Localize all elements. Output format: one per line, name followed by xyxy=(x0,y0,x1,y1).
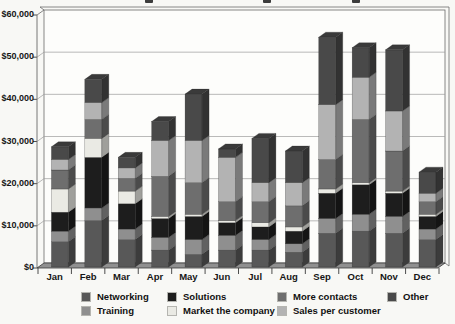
y-axis-label: $60,000 xyxy=(0,9,34,20)
bar-side-sep-more-contacts xyxy=(336,154,343,189)
bar-segment-dec-training xyxy=(419,229,436,240)
x-axis-label-jan: Jan xyxy=(38,271,72,282)
legend-item-networking: Networking xyxy=(81,291,149,302)
bar-side-feb-networking xyxy=(102,216,109,267)
legend-label: Networking xyxy=(97,291,149,302)
bar-segment-dec-other xyxy=(419,172,436,193)
legend-item-solutions: Solutions xyxy=(167,291,226,302)
bar-segment-jul-solutions xyxy=(252,227,269,240)
legend-swatch-training xyxy=(81,306,91,316)
bar-segment-mar-training xyxy=(118,229,135,240)
bar-segment-nov-solutions xyxy=(386,193,403,216)
bar-segment-apr-solutions xyxy=(152,219,169,238)
bar-segment-sep-market-the-company xyxy=(319,189,336,193)
bar-side-aug-other xyxy=(302,146,309,183)
side-wall-gridline xyxy=(37,221,44,226)
bar-segment-oct-solutions xyxy=(352,185,369,215)
y-axis-label: $20,000 xyxy=(0,178,34,189)
bar-segment-aug-other xyxy=(285,151,302,183)
bar-segment-sep-networking xyxy=(319,233,336,267)
bar-side-apr-more-contacts xyxy=(169,171,176,216)
bar-segment-sep-other xyxy=(319,37,336,104)
bar-segment-dec-market-the-company xyxy=(419,214,436,216)
legend-label: Sales per customer xyxy=(293,305,381,316)
bar-side-sep-solutions xyxy=(336,188,343,218)
side-wall-top-edge xyxy=(37,10,44,15)
bar-segment-dec-more-contacts xyxy=(419,202,436,215)
side-wall-gridline xyxy=(37,179,44,184)
bar-segment-jun-networking xyxy=(218,250,235,267)
bar-segment-jul-more-contacts xyxy=(252,202,269,223)
bar-segment-mar-more-contacts xyxy=(118,178,135,191)
bar-side-sep-other xyxy=(336,32,343,104)
legend-item-training: Training xyxy=(81,305,134,316)
bar-segment-oct-sales-per-customer xyxy=(352,77,369,119)
bar-segment-apr-sales-per-customer xyxy=(152,141,169,177)
bar-segment-jun-solutions xyxy=(218,223,235,236)
bar-side-sep-sales-per-customer xyxy=(336,100,343,160)
bar-segment-may-solutions xyxy=(185,216,202,239)
bar-segment-mar-networking xyxy=(118,240,135,267)
y-axis-label: $0 xyxy=(0,262,34,273)
bar-segment-mar-market-the-company xyxy=(118,191,135,204)
bar-segment-aug-solutions xyxy=(285,231,302,244)
y-axis-label: $30,000 xyxy=(0,136,34,147)
x-axis-label-oct: Oct xyxy=(338,271,372,282)
legend-swatch-networking xyxy=(81,292,91,302)
bar-segment-may-training xyxy=(185,240,202,255)
bar-side-sep-networking xyxy=(336,228,343,267)
bar-segment-sep-solutions xyxy=(319,193,336,218)
bar-side-mar-solutions xyxy=(135,199,142,229)
bar-segment-apr-market-the-company xyxy=(152,216,169,218)
bar-segment-jul-sales-per-customer xyxy=(252,183,269,202)
bar-segment-jul-other xyxy=(252,138,269,182)
bar-side-mar-networking xyxy=(135,235,142,267)
bar-side-dec-networking xyxy=(436,235,443,267)
legend-swatch-other xyxy=(387,292,397,302)
bar-side-may-more-contacts xyxy=(202,178,209,215)
bar-segment-nov-other xyxy=(386,50,403,111)
bar-segment-may-market-the-company xyxy=(185,214,202,216)
stacked-column-chart-page: $60,000$50,000$40,000$30,000$20,000$10,0… xyxy=(0,0,455,324)
bar-segment-jun-market-the-company xyxy=(218,221,235,223)
bar-segment-mar-sales-per-customer xyxy=(118,168,135,179)
bar-segment-nov-training xyxy=(386,216,403,233)
y-axis-label: $40,000 xyxy=(0,93,34,104)
bar-side-nov-networking xyxy=(403,228,410,267)
bar-side-oct-solutions xyxy=(369,180,376,215)
legend-item-sales-per-customer: Sales per customer xyxy=(277,305,381,316)
y-axis-label: $10,000 xyxy=(0,220,34,231)
bar-segment-oct-other xyxy=(352,48,369,78)
x-axis-label-jun: Jun xyxy=(205,271,239,282)
bar-segment-sep-training xyxy=(319,219,336,234)
bar-segment-feb-solutions xyxy=(85,157,102,208)
bar-segment-jun-sales-per-customer xyxy=(218,157,235,201)
legend-label: More contacts xyxy=(293,291,357,302)
x-axis-label-dec: Dec xyxy=(405,271,439,282)
bar-side-jan-networking xyxy=(68,237,75,267)
bar-segment-apr-more-contacts xyxy=(152,176,169,216)
bar-segment-sep-more-contacts xyxy=(319,159,336,189)
bar-segment-jan-other xyxy=(51,147,68,160)
bar-segment-apr-training xyxy=(152,237,169,250)
bar-segment-may-sales-per-customer xyxy=(185,141,202,183)
bar-segment-may-networking xyxy=(185,254,202,267)
bar-segment-aug-sales-per-customer xyxy=(285,183,302,206)
bar-segment-jan-more-contacts xyxy=(51,170,68,189)
bar-segment-nov-networking xyxy=(386,233,403,267)
bar-segment-may-other xyxy=(185,94,202,140)
bar-segment-nov-sales-per-customer xyxy=(386,111,403,151)
bar-segment-dec-sales-per-customer xyxy=(419,193,436,201)
bar-segment-dec-solutions xyxy=(419,216,436,229)
bar-segment-jul-training xyxy=(252,240,269,251)
side-wall-gridline xyxy=(37,137,44,142)
x-axis-label-aug: Aug xyxy=(272,271,306,282)
bar-segment-oct-training xyxy=(352,214,369,231)
bar-segment-jun-more-contacts xyxy=(218,202,235,221)
x-axis-label-may: May xyxy=(171,271,205,282)
bar-segment-jul-networking xyxy=(252,250,269,267)
legend-label: Market the company xyxy=(183,305,275,316)
bar-segment-jun-training xyxy=(218,235,235,250)
bar-segment-feb-more-contacts xyxy=(85,119,102,138)
bar-segment-feb-sales-per-customer xyxy=(85,103,102,120)
